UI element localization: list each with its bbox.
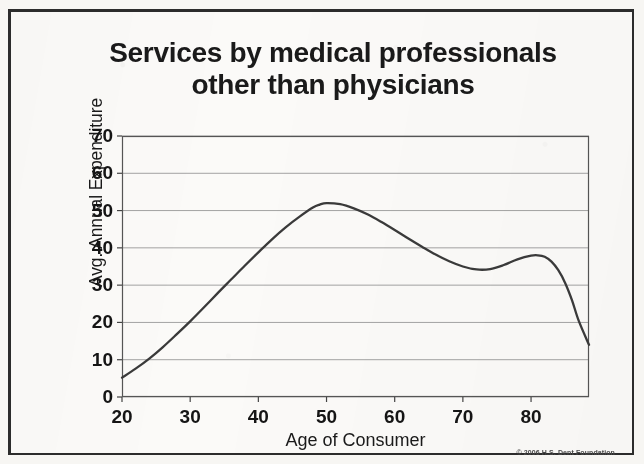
gridlines <box>122 136 589 397</box>
expenditure-data-line <box>122 203 589 378</box>
y-axis-title: Avg. Annual Expenditure <box>86 43 107 343</box>
plot-area: 010203040506070 20304050607080 <box>122 136 589 397</box>
y-tick-label-10: 10 <box>92 348 113 370</box>
y-tick-label-70: 70 <box>92 125 113 147</box>
x-tick-label-70: 70 <box>452 406 473 428</box>
chart-title: Services by medical professionals other … <box>33 37 633 100</box>
line-chart-svg <box>122 136 589 397</box>
x-tick-label-60: 60 <box>384 406 405 428</box>
x-tick-label-40: 40 <box>248 406 269 428</box>
x-axis-ticks <box>122 397 531 402</box>
y-tick-label-40: 40 <box>92 236 113 258</box>
y-tick-label-30: 30 <box>92 274 113 296</box>
y-tick-label-20: 20 <box>92 311 113 333</box>
y-tick-label-60: 60 <box>92 162 113 184</box>
chart-title-line-1: Services by medical professionals <box>109 37 557 68</box>
y-tick-label-50: 50 <box>92 199 113 221</box>
y-axis-ticks <box>117 136 122 397</box>
x-axis-title: Age of Consumer <box>122 430 589 451</box>
chart-title-line-2: other than physicians <box>33 69 633 101</box>
plot-frame-rect <box>123 137 589 397</box>
plot-frame <box>123 137 589 397</box>
x-tick-label-30: 30 <box>180 406 201 428</box>
chart-page: Services by medical professionals other … <box>0 0 644 464</box>
page-frame-border: Services by medical professionals other … <box>8 9 634 455</box>
y-tick-label-0: 0 <box>102 386 113 408</box>
x-tick-label-80: 80 <box>520 406 541 428</box>
x-tick-label-20: 20 <box>111 406 132 428</box>
copyright-notice: © 2006 H.S. Dent Foundation <box>517 449 615 456</box>
x-tick-label-50: 50 <box>316 406 337 428</box>
